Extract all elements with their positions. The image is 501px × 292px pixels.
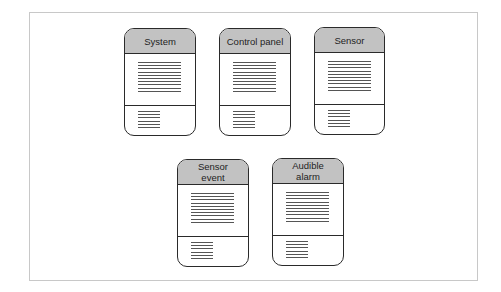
attributes-section [273, 184, 343, 236]
class-name-header: Control panel [220, 29, 290, 54]
operation-lines [328, 110, 350, 127]
operations-section [220, 106, 290, 135]
class-name-header: Sensor event [178, 160, 248, 185]
attribute-lines [328, 61, 371, 91]
operation-lines [233, 111, 255, 128]
class-name-header: Audible alarm [273, 159, 343, 184]
attributes-section [220, 54, 290, 106]
attribute-lines [233, 62, 276, 92]
operation-lines [138, 111, 160, 128]
operations-section [273, 236, 343, 265]
attribute-lines [138, 62, 181, 92]
class-card-audible-alarm: Audible alarm [272, 158, 344, 266]
class-card-system: System [124, 28, 196, 136]
attribute-lines [286, 192, 329, 222]
attribute-lines [191, 193, 234, 223]
operations-section [125, 106, 195, 135]
operations-section [315, 105, 384, 134]
operation-lines [191, 242, 213, 259]
operations-section [178, 237, 248, 266]
class-card-sensor: Sensor [314, 27, 385, 135]
attributes-section [178, 185, 248, 237]
class-card-control-panel: Control panel [219, 28, 291, 136]
class-name-header: Sensor [315, 28, 384, 53]
attributes-section [315, 53, 384, 105]
attributes-section [125, 54, 195, 106]
class-card-sensor-event: Sensor event [177, 159, 249, 267]
operation-lines [286, 241, 308, 258]
class-name-header: System [125, 29, 195, 54]
